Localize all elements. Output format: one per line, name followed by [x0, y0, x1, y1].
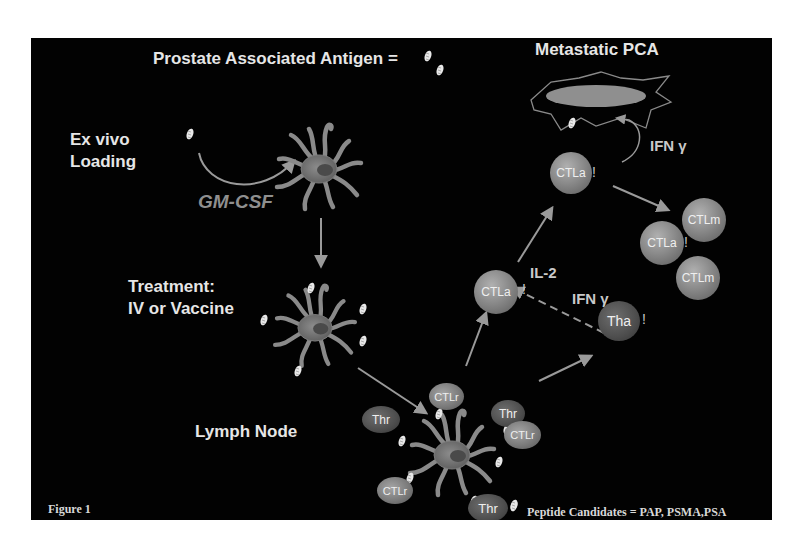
- lymph-node-label: Lymph Node: [195, 421, 297, 443]
- il2-label: IL-2: [530, 264, 557, 281]
- ctlr-cell-top: CTLr: [429, 383, 464, 410]
- metastatic-label: Metastatic PCA: [535, 39, 659, 61]
- dendritic-cell-icon: [275, 286, 355, 366]
- cell-label: CTLa: [647, 236, 676, 250]
- thr-cell-left: Thr: [362, 406, 400, 433]
- tha-cell: Tha: [598, 301, 640, 341]
- cell-label: CTLm: [688, 213, 721, 227]
- arrow-icon: [539, 356, 591, 381]
- ctla-cell-top: CTLa: [550, 152, 592, 194]
- treatment-line2: IV or Vaccine: [128, 298, 234, 320]
- cell-label: CTLr: [383, 485, 407, 497]
- cell-label: Thr: [478, 501, 498, 516]
- antigen-peptide-icon: [185, 128, 195, 141]
- tumor-cell-icon: [531, 72, 671, 130]
- ctla-cell-right: CTLa: [640, 221, 684, 265]
- cell-label: Thr: [499, 407, 517, 421]
- ctlr-cell-left: CTLr: [377, 477, 413, 504]
- treatment-label: Treatment: IV or Vaccine: [128, 276, 234, 320]
- ifn-gamma-mid-label: IFN γ: [572, 290, 609, 307]
- activation-mark: !: [642, 311, 646, 327]
- activation-mark: !: [592, 164, 596, 180]
- cell-label: Thr: [372, 413, 390, 427]
- cell-label: Tha: [607, 313, 631, 329]
- activation-mark: !: [684, 234, 688, 250]
- arrow-icon: [613, 186, 668, 210]
- cell-label: CTLa: [481, 285, 510, 299]
- activation-mark: !: [522, 281, 526, 297]
- cell-label: CTLm: [682, 271, 715, 285]
- ifn-gamma-top-label: IFN γ: [650, 137, 687, 154]
- ctlr-cell-right: CTLr: [504, 421, 541, 449]
- ex-vivo-label: Ex vivo Loading: [70, 129, 136, 173]
- cell-label: CTLr: [510, 429, 534, 441]
- cell-label: CTLr: [434, 391, 458, 403]
- antigen-peptide-icon: [423, 50, 445, 77]
- arrow-icon: [358, 368, 426, 413]
- cell-label: CTLa: [556, 166, 585, 180]
- treatment-line1: Treatment:: [128, 276, 234, 298]
- ex-vivo-line2: Loading: [70, 151, 136, 173]
- ctlm-cell-2: CTLm: [676, 256, 720, 300]
- arrow-icon: [466, 313, 486, 366]
- antigen-peptide-icon: [567, 117, 577, 130]
- dendritic-cell-icon: [410, 411, 494, 495]
- arrow-icon: [518, 208, 552, 262]
- figure-panel: Prostate Associated Antigen = Metastatic…: [31, 38, 772, 520]
- figure-caption: Figure 1: [48, 502, 91, 517]
- gm-csf-label: GM-CSF: [198, 191, 273, 213]
- peptide-legend: Peptide Candidates = PAP, PSMA,PSA: [527, 505, 727, 520]
- ctla-cell-mid: CTLa: [474, 270, 518, 314]
- figure-title: Prostate Associated Antigen =: [153, 48, 398, 70]
- ex-vivo-line1: Ex vivo: [70, 129, 136, 151]
- thr-cell-bottom: Thr: [468, 494, 508, 520]
- ctlm-cell-1: CTLm: [682, 198, 726, 242]
